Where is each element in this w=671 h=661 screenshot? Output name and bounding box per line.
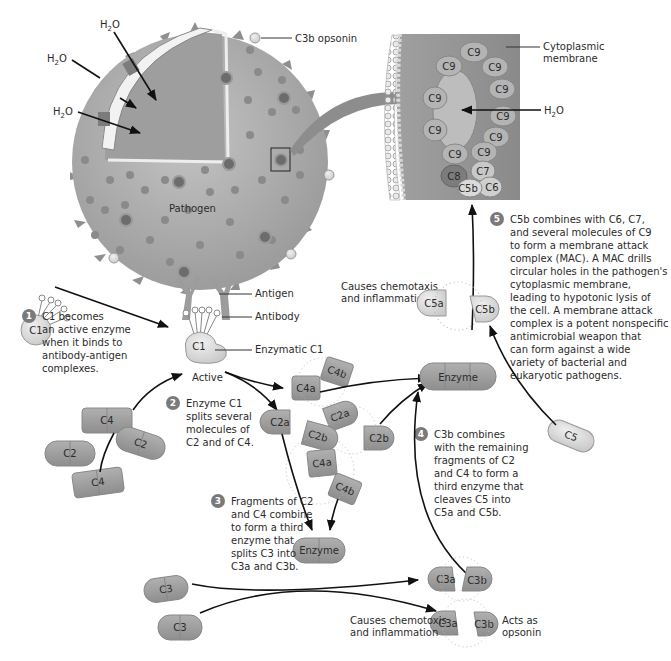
step-5: 5 C5b combines with C6, C7, and several … — [490, 212, 669, 381]
svg-text:Enzyme: Enzyme — [299, 545, 339, 556]
svg-text:C9: C9 — [448, 149, 461, 160]
pathogen-label: Pathogen — [169, 203, 216, 214]
svg-text:variety of bacterial and: variety of bacterial and — [510, 357, 627, 368]
svg-text:C4: C4 — [100, 415, 113, 426]
c3-molecule-1: C3 — [143, 574, 190, 604]
svg-text:Cytoplasmic: Cytoplasmic — [543, 41, 604, 52]
svg-text:C3: C3 — [173, 622, 186, 633]
svg-text:cytoplasmic membrane,: cytoplasmic membrane, — [510, 279, 631, 290]
svg-text:enzyme that: enzyme that — [231, 535, 294, 546]
arrow-c4b-to-enzyme2 — [330, 499, 338, 530]
svg-text:C4: C4 — [91, 476, 106, 489]
svg-text:C9: C9 — [477, 147, 490, 158]
svg-text:C2 and of C4.: C2 and of C4. — [186, 437, 254, 448]
svg-text:C3: C3 — [159, 583, 174, 596]
arrow-c2b-to-enzyme — [380, 383, 428, 424]
svg-text:splits several: splits several — [186, 411, 252, 422]
svg-text:an active enzyme: an active enzyme — [42, 324, 131, 335]
complement-cascade-diagram: Pathogen H2O H2O H2O C3b opsonin C9 C9 C… — [0, 0, 671, 661]
step-2-description: 2 Enzyme C1 splits several molecules of … — [166, 396, 254, 448]
step-1-description: 1 C1 becomes an active enzyme when it bi… — [26, 311, 131, 374]
svg-text:cleaves C5 into: cleaves C5 into — [434, 494, 511, 505]
mac-inset: C9 C9 C9 C9 C9 C9 C9 C9 C9 C9 C8 C7 C6 — [384, 34, 604, 200]
svg-text:C3a and C3b.: C3a and C3b. — [231, 561, 299, 572]
svg-text:the cell. A membrane attack: the cell. A membrane attack — [510, 305, 653, 316]
antibody-label: Antibody — [255, 311, 300, 322]
svg-text:C8: C8 — [447, 171, 460, 182]
water-label-3: H2O — [53, 106, 73, 120]
svg-text:when it binds to: when it binds to — [42, 337, 122, 348]
svg-text:C1 becomes: C1 becomes — [42, 311, 104, 322]
svg-text:C5a and C5b.: C5a and C5b. — [434, 507, 502, 518]
svg-text:Enzyme: Enzyme — [438, 372, 478, 383]
svg-text:C6: C6 — [485, 182, 498, 193]
fragment-cluster: C4a C4b C2a C2a C2b C2b C4a — [260, 356, 394, 505]
svg-text:can form against a wide: can form against a wide — [510, 344, 630, 355]
svg-text:circular holes in the pathogen: circular holes in the pathogen's — [510, 266, 668, 277]
svg-text:molecules of: molecules of — [186, 424, 250, 435]
svg-text:complex is a potent nonspecifi: complex is a potent nonspecific — [510, 318, 669, 329]
svg-text:and C4 combine: and C4 combine — [231, 509, 313, 520]
svg-text:and C4 to form a: and C4 to form a — [434, 468, 518, 479]
enzyme-c3-convertase: Enzyme — [293, 538, 345, 563]
svg-text:and inflammation: and inflammation — [350, 627, 438, 638]
svg-text:and several molecules of C9: and several molecules of C9 — [510, 227, 652, 238]
svg-text:C9: C9 — [496, 111, 509, 122]
svg-text:with the remaining: with the remaining — [434, 442, 528, 453]
svg-text:C3a: C3a — [436, 574, 455, 585]
svg-text:Fragments of C2: Fragments of C2 — [231, 496, 313, 507]
svg-text:fragments of C2: fragments of C2 — [434, 455, 515, 466]
svg-text:C1: C1 — [192, 341, 205, 352]
water-label-2: H2O — [47, 53, 67, 67]
svg-text:complexes.: complexes. — [42, 363, 99, 374]
water-label-1: H2O — [100, 19, 120, 33]
svg-text:5: 5 — [494, 214, 500, 224]
svg-text:C9: C9 — [428, 93, 441, 104]
svg-text:C9: C9 — [489, 132, 502, 143]
step-3-description: 3 Fragments of C2 and C4 combine to form… — [211, 494, 313, 572]
svg-text:C9: C9 — [428, 125, 441, 136]
svg-text:C5b combines with C6, C7,: C5b combines with C6, C7, — [510, 214, 645, 225]
svg-text:C5a: C5a — [424, 298, 443, 309]
svg-text:C3b: C3b — [474, 619, 494, 630]
arrow-c3-to-split-1 — [192, 580, 418, 590]
svg-text:leading to hypotonic lysis of: leading to hypotonic lysis of — [510, 292, 651, 303]
svg-text:C2b: C2b — [369, 433, 389, 444]
svg-text:C9: C9 — [442, 61, 455, 72]
svg-text:C3b combines: C3b combines — [434, 429, 505, 440]
svg-text:antimicrobial weapon that: antimicrobial weapon that — [510, 331, 641, 342]
step-4-description: 4 C3b combines with the remaining fragme… — [414, 427, 528, 518]
arrow-active-to-c4a — [225, 372, 283, 388]
svg-text:C5b: C5b — [475, 304, 495, 315]
antibody-complex: C1 Active — [176, 276, 234, 383]
svg-text:C9: C9 — [488, 62, 501, 73]
svg-text:2: 2 — [170, 398, 176, 408]
pool-connector — [100, 433, 114, 472]
svg-text:3: 3 — [215, 496, 221, 506]
c2-c4-pool: C4 C2 C2 C4 — [45, 408, 168, 498]
mac-water-label: H2O — [544, 105, 564, 119]
c5-fragments: Causes chemotaxis and inflammation C5a C… — [341, 281, 499, 330]
svg-text:C1: C1 — [29, 325, 42, 336]
svg-text:1: 1 — [26, 311, 32, 321]
svg-text:C4a: C4a — [312, 457, 333, 470]
enzymatic-c1-label: Enzymatic C1 — [255, 344, 323, 355]
svg-text:Causes chemotoxis: Causes chemotoxis — [350, 615, 447, 626]
c3-fragments-top: C3a C3b — [428, 557, 492, 601]
active-label: Active — [192, 372, 223, 383]
svg-text:C9: C9 — [495, 84, 508, 95]
svg-text:Causes chemotaxis: Causes chemotaxis — [341, 281, 438, 292]
c3-molecule-2: C3 — [158, 615, 202, 640]
svg-text:C7: C7 — [476, 166, 489, 177]
svg-text:4: 4 — [418, 429, 424, 439]
svg-text:C5b: C5b — [458, 183, 478, 194]
svg-text:Enzyme C1: Enzyme C1 — [186, 398, 242, 409]
antigen-label: Antigen — [255, 288, 294, 299]
arrow-c3-to-split-2 — [200, 591, 436, 613]
svg-text:membrane: membrane — [543, 53, 598, 64]
svg-text:C2: C2 — [63, 448, 76, 459]
svg-text:splits C3 into: splits C3 into — [231, 548, 296, 559]
svg-text:to form a third: to form a third — [231, 522, 303, 533]
svg-text:to form a membrane attack: to form a membrane attack — [510, 240, 649, 251]
svg-text:opsonin: opsonin — [502, 627, 541, 638]
